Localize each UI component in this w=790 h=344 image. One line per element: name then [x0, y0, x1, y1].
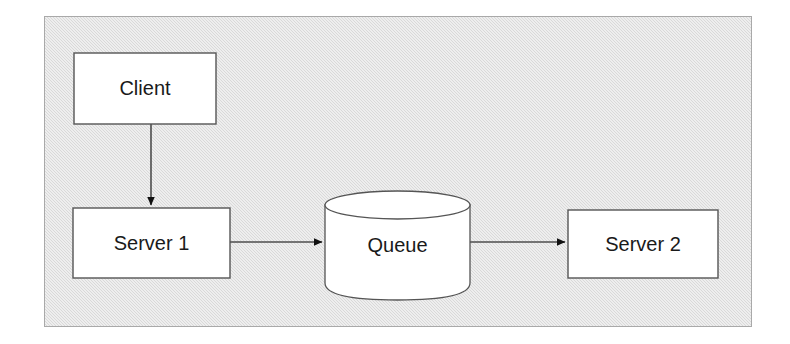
- node-client-shape: [74, 53, 216, 124]
- diagram-canvas: Client Server 1 Queue Server 2: [0, 0, 790, 344]
- node-server2[interactable]: [568, 210, 718, 278]
- node-server2-shape: [568, 210, 718, 278]
- diagram-svg: [0, 0, 790, 344]
- node-queue[interactable]: [325, 191, 470, 300]
- node-client[interactable]: [74, 53, 216, 124]
- node-server1[interactable]: [73, 208, 230, 278]
- node-queue-top-ellipse: [325, 191, 470, 219]
- node-server1-shape: [73, 208, 230, 278]
